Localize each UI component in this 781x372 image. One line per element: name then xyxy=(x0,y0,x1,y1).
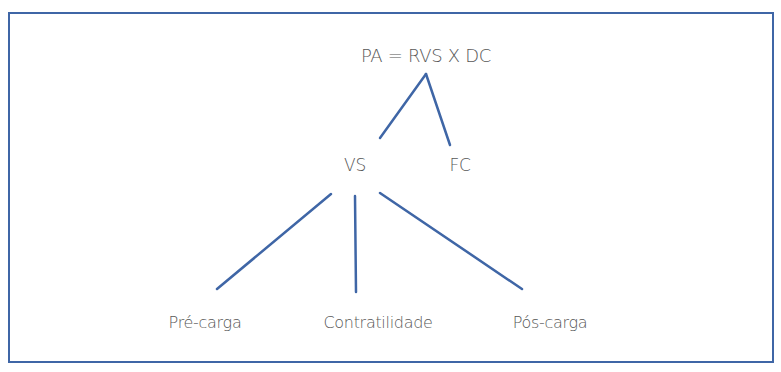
connector-vs-contratilidade xyxy=(355,196,356,292)
connector-formula-fc xyxy=(426,74,450,145)
node-fc: FC xyxy=(449,155,470,175)
connector-vs-pre-carga xyxy=(217,194,331,289)
node-pre-carga: Pré-carga xyxy=(169,313,242,332)
node-vs: VS xyxy=(344,155,366,175)
node-contratilidade: Contratilidade xyxy=(323,313,432,332)
formula-label: PA = RVS X DC xyxy=(361,45,491,66)
node-pos-carga: Pós-carga xyxy=(513,313,588,332)
connector-vs-pos-carga xyxy=(380,193,522,289)
connector-formula-vs xyxy=(380,74,426,138)
